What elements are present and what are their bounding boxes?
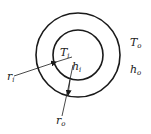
label-h-o: ho: [130, 63, 141, 77]
label-r-o: ro: [56, 114, 65, 128]
r-o-leader: [62, 89, 68, 116]
diagram-canvas: Ti hi To ho ri ro: [0, 0, 151, 134]
label-r-i: ri: [7, 70, 15, 84]
label-T-i: Ti: [60, 46, 70, 60]
label-h-i: hi: [72, 60, 81, 74]
r-i-leader: [14, 62, 56, 76]
label-T-o: To: [130, 36, 142, 50]
outer-circle: [36, 13, 120, 97]
